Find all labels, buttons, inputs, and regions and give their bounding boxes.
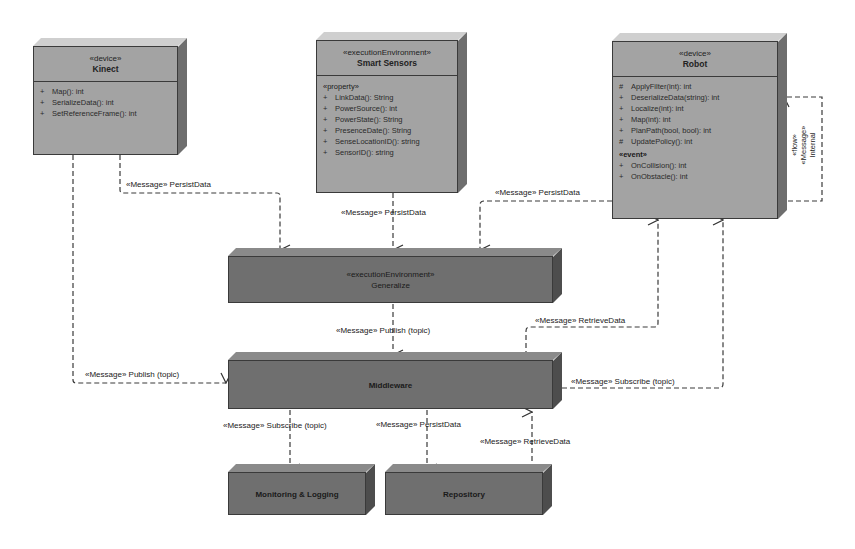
- visibility: +: [619, 114, 631, 125]
- operation-text: SetReferenceFrame(): int: [52, 109, 137, 118]
- operation: +PowerSource(): int: [323, 103, 453, 114]
- operation: +Localize(int): int: [619, 103, 773, 114]
- node-repository[interactable]: Repository: [385, 472, 543, 515]
- operation: #UpdatePolicy(): int: [619, 136, 773, 147]
- operation: +PresenceDate(): String: [323, 125, 453, 136]
- operation: +SetReferenceFrame(): int: [40, 108, 173, 119]
- visibility: +: [40, 97, 52, 108]
- section-label: «property»: [317, 82, 457, 91]
- node-side-face: [178, 38, 187, 155]
- operation: +SerializeData(): int: [40, 97, 173, 108]
- edge-label-kinect-publish: «Message» Publish (topic): [85, 370, 179, 379]
- operation: +Map(int): int: [619, 114, 773, 125]
- label-line: «Message»: [799, 110, 808, 180]
- node-name: Generalize: [229, 280, 552, 291]
- node-middleware[interactable]: Middleware: [228, 360, 553, 409]
- node-side-face: [553, 352, 562, 409]
- visibility: +: [619, 171, 631, 182]
- edge-label-robot-internal: «flow» «Message» Internal: [790, 110, 817, 180]
- visibility: +: [323, 136, 335, 147]
- operation-text: UpdatePolicy(): int: [631, 137, 692, 146]
- edge-label-middleware-persist-repo: «Message» PersistData: [376, 420, 461, 429]
- visibility: #: [619, 81, 631, 92]
- node-top-face: [612, 33, 787, 41]
- operation: +PowerState(): String: [323, 114, 453, 125]
- node-header: «device» Kinect: [34, 47, 177, 75]
- node-generalize[interactable]: «executionEnvironment» Generalize: [228, 256, 553, 303]
- events-list: +OnCollision(): int +OnObstacle(): int: [613, 159, 777, 182]
- operation: +LinkData(): String: [323, 92, 453, 103]
- node-top-face: [385, 464, 552, 472]
- node-monitoring-logging[interactable]: Monitoring & Logging: [228, 472, 366, 515]
- visibility: +: [323, 103, 335, 114]
- node-top-face: [228, 464, 375, 472]
- operation-text: Map(): int: [52, 87, 84, 96]
- node-robot[interactable]: «device» Robot #ApplyFilter(int): int +D…: [612, 41, 778, 219]
- visibility: +: [619, 103, 631, 114]
- operation-text: SerializeData(): int: [52, 98, 114, 107]
- node-side-face: [778, 33, 787, 219]
- node-stereotype: «executionEnvironment»: [317, 47, 457, 58]
- operations-list: #ApplyFilter(int): int +DeserializeData(…: [613, 77, 777, 147]
- operation-text: SensorID(): string: [335, 148, 394, 157]
- node-stereotype: «device»: [34, 53, 177, 64]
- visibility: +: [40, 86, 52, 97]
- node-smart-sensors[interactable]: «executionEnvironment» Smart Sensors «pr…: [316, 40, 458, 193]
- node-kinect[interactable]: «device» Kinect +Map(): int +SerializeDa…: [33, 46, 178, 155]
- operation-text: PresenceDate(): String: [335, 126, 411, 135]
- node-side-face: [458, 32, 467, 193]
- visibility: +: [619, 160, 631, 171]
- operation-text: ApplyFilter(int): int: [631, 82, 691, 91]
- operation-text: PowerSource(): int: [335, 104, 397, 113]
- operation-text: Map(int): int: [631, 115, 671, 124]
- edge-robot-generalize: [480, 201, 612, 250]
- node-side-face: [366, 464, 375, 515]
- edge-middleware-robot-subscribe: [562, 220, 723, 388]
- operation-text: LinkData(): String: [335, 93, 393, 102]
- node-label: «executionEnvironment» Generalize: [229, 269, 552, 291]
- operation: +DeserializeData(string): int: [619, 92, 773, 103]
- operation: +SenseLocationID(): string: [323, 136, 453, 147]
- edge-label-middleware-subscribe-monitoring: «Message» Subscribe (topic): [223, 421, 327, 430]
- node-name: Middleware: [229, 379, 552, 390]
- node-name: Robot: [613, 59, 777, 70]
- visibility: +: [619, 125, 631, 136]
- operation-text: PlanPath(bool, bool): int: [631, 126, 711, 135]
- operations-list: +Map(): int +SerializeData(): int +SetRe…: [34, 82, 177, 119]
- event: +OnObstacle(): int: [619, 171, 773, 182]
- event: +OnCollision(): int: [619, 160, 773, 171]
- edge-label-robot-persist: «Message» PersistData: [495, 188, 580, 197]
- operation-text: SenseLocationID(): string: [335, 137, 420, 146]
- visibility: +: [619, 92, 631, 103]
- operation-text: DeserializeData(string): int: [631, 93, 719, 102]
- node-name: Repository: [386, 488, 542, 499]
- operation-text: Localize(int): int: [631, 104, 684, 113]
- event-text: OnObstacle(): int: [631, 172, 688, 181]
- visibility: +: [323, 114, 335, 125]
- node-side-face: [553, 248, 562, 303]
- edge-label-kinect-persist: «Message» PersistData: [126, 180, 211, 189]
- node-stereotype: «device»: [613, 48, 777, 59]
- visibility: +: [323, 125, 335, 136]
- visibility: +: [323, 147, 335, 158]
- node-header: «device» Robot: [613, 42, 777, 70]
- node-top-face: [228, 352, 562, 360]
- event-text: OnCollision(): int: [631, 161, 686, 170]
- node-top-face: [33, 38, 187, 46]
- operation: +Map(): int: [40, 86, 173, 97]
- edge-kinect-generalize: [120, 155, 280, 250]
- edge-label-generalize-publish: «Message» Publish (topic): [336, 326, 430, 335]
- operation: #ApplyFilter(int): int: [619, 81, 773, 92]
- operation: +PlanPath(bool, bool): int: [619, 125, 773, 136]
- event-section-label: «event»: [613, 150, 777, 159]
- node-header: «executionEnvironment» Smart Sensors: [317, 41, 457, 69]
- visibility: +: [40, 108, 52, 119]
- edge-label-sensors-persist: «Message» PersistData: [341, 208, 426, 217]
- node-stereotype: «executionEnvironment»: [229, 269, 552, 280]
- node-top-face: [316, 32, 467, 40]
- node-name: Monitoring & Logging: [229, 488, 365, 499]
- operations-list: +LinkData(): String +PowerSource(): int …: [317, 91, 457, 158]
- visibility: #: [619, 136, 631, 147]
- node-top-face: [228, 248, 562, 256]
- edge-kinect-middleware: [73, 155, 226, 383]
